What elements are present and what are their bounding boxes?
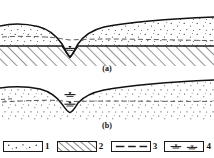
panel-a-cross-section bbox=[0, 10, 214, 66]
legend-swatch-sand bbox=[3, 141, 43, 152]
legend-swatch-bedrock bbox=[57, 141, 97, 152]
water-table-marker bbox=[65, 46, 76, 50]
figure-root: (a) bbox=[0, 0, 214, 158]
legend: 1 2 bbox=[0, 136, 214, 156]
legend-number-3: 3 bbox=[153, 142, 158, 151]
legend-number-1: 1 bbox=[45, 142, 50, 151]
page-edge-artifact bbox=[0, 0, 214, 7]
legend-number-4: 4 bbox=[206, 142, 211, 151]
legend-item-2: 2 bbox=[57, 141, 104, 152]
legend-number-2: 2 bbox=[99, 142, 104, 151]
water-table-marker-lower bbox=[65, 102, 76, 106]
legend-item-1: 1 bbox=[3, 141, 50, 152]
panel-b-cross-section bbox=[0, 70, 214, 122]
legend-item-4: 4 bbox=[164, 141, 211, 152]
water-table-marker-upper bbox=[65, 92, 76, 96]
sand-layer bbox=[0, 78, 214, 122]
legend-swatch-water-table bbox=[164, 141, 204, 152]
legend-swatch-dashed-line bbox=[111, 141, 151, 152]
sand-layer bbox=[0, 16, 214, 50]
caption-panel-b: (b) bbox=[0, 122, 214, 130]
legend-item-3: 3 bbox=[111, 141, 158, 152]
